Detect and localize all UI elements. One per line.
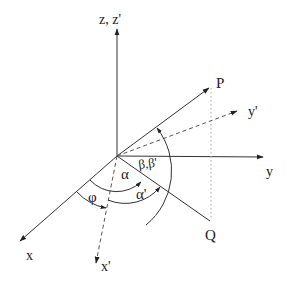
angle-alpha-prime-label: α' xyxy=(136,186,147,202)
y-axis-label: y xyxy=(266,164,273,179)
z-axis-label: z, z' xyxy=(99,12,121,27)
x-prime-axis-label: x' xyxy=(101,259,111,274)
point-q-label: Q xyxy=(205,227,216,243)
angle-beta-label: β,β' xyxy=(137,154,158,171)
diagram-canvas: z, z' y y' x x' P Q α α' β,β' φ xyxy=(0,0,287,283)
x-axis-label: x xyxy=(26,248,33,263)
alpha-arc xyxy=(90,180,141,192)
point-p-label: P xyxy=(216,75,224,91)
y-prime-axis-label: y' xyxy=(248,104,258,119)
y-prime-axis xyxy=(117,111,237,156)
alpha-prime-arc xyxy=(108,187,160,203)
op-vector xyxy=(117,88,209,156)
beta-arc xyxy=(146,128,172,225)
angle-phi-label: φ xyxy=(88,189,97,205)
angle-alpha-label: α xyxy=(121,166,129,182)
